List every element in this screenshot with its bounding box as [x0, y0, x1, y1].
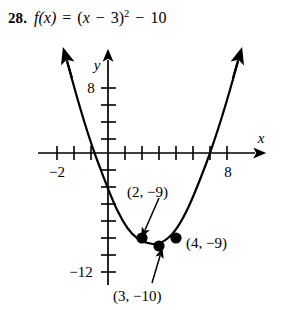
annotation-arrow-2-neg9 — [145, 198, 159, 230]
x-tick-label-neg2: −2 — [49, 164, 65, 180]
point-label-4-neg9: (4, −9) — [186, 235, 227, 252]
parabola-right-arrow — [233, 61, 238, 78]
function-argument: (x) — [39, 9, 57, 26]
problem-header: 28. f(x) = (x − 3)2 − 10 — [8, 8, 283, 34]
y-tick-label-neg12: −12 — [69, 264, 92, 280]
y-axis — [101, 60, 116, 285]
point-label-3-neg10: (3, −10) — [113, 288, 161, 305]
tail-minus: − — [133, 9, 146, 26]
parabola-graph-figure: x y −2 8 8 −12 (2, −9) (4, −9) (3, −10) — [0, 40, 287, 310]
data-point-4-neg9 — [170, 232, 181, 243]
point-label-2-neg9: (2, −9) — [127, 184, 168, 201]
binomial-constant: 3 — [111, 9, 119, 26]
tail-constant: 10 — [150, 9, 166, 26]
y-tick-label-8: 8 — [87, 80, 95, 96]
data-point-3-neg10 — [153, 240, 164, 251]
x-tick-label-8: 8 — [224, 164, 232, 180]
x-axis-label: x — [257, 130, 265, 146]
exponent: 2 — [124, 8, 129, 19]
binomial-variable: x — [83, 9, 90, 26]
graph-canvas: x y −2 8 8 −12 (2, −9) (4, −9) (3, −10) — [0, 40, 287, 310]
parabola-left-arrow — [67, 61, 72, 78]
problem-formula: f(x) = (x − 3)2 − 10 — [34, 8, 166, 27]
binomial-minus: − — [94, 9, 107, 26]
data-point-2-neg9 — [136, 232, 147, 243]
problem-number: 28. — [8, 10, 27, 27]
y-axis-label: y — [92, 57, 101, 73]
equals-sign: = — [60, 9, 73, 26]
x-axis — [38, 146, 255, 160]
annotation-arrow-3-neg10 — [152, 256, 160, 283]
